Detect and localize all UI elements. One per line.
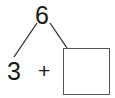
plus-operator: + bbox=[38, 60, 50, 81]
right-branch-line bbox=[50, 23, 67, 48]
whole-number: 6 bbox=[35, 3, 49, 28]
left-branch-line bbox=[14, 23, 37, 57]
answer-box[interactable] bbox=[63, 48, 110, 95]
left-part-number: 3 bbox=[7, 59, 21, 84]
